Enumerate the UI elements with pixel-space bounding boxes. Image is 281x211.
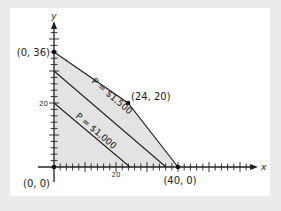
- y-tick-label-20: 20: [39, 100, 48, 108]
- x-axis-label: x: [260, 162, 267, 172]
- label-x-intercept: (40, 0): [163, 175, 196, 186]
- label-origin: (0, 0): [23, 178, 50, 189]
- x-tick-label-20: 20: [112, 171, 121, 179]
- point-y-intercept: [52, 50, 57, 55]
- point-x-intercept: [176, 165, 181, 170]
- linear-programming-chart: (0, 36) (24, 20) (0, 0) (40, 0) P = $1,5…: [0, 0, 281, 211]
- label-y-intercept: (0, 36): [17, 47, 50, 58]
- point-origin: [52, 165, 57, 170]
- feasible-region: [54, 52, 178, 167]
- y-axis-label: y: [50, 11, 57, 21]
- x-axis-arrow-icon: [250, 164, 258, 170]
- label-corner: (24, 20): [131, 91, 171, 102]
- y-axis-arrow-icon: [51, 21, 57, 29]
